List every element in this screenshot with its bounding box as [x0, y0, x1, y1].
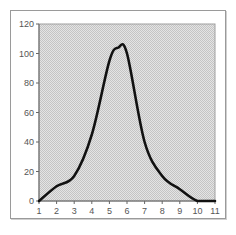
x-tick-label: 3 — [72, 206, 77, 216]
x-tick-label: 10 — [192, 206, 202, 216]
y-tick-label: 60 — [24, 108, 34, 118]
y-tick-label: 0 — [29, 196, 34, 206]
x-tick-label: 7 — [142, 206, 147, 216]
x-axis-ticks: 1234567891011 — [36, 201, 219, 216]
line-chart: 020406080100120 1234567891011 — [0, 0, 236, 235]
y-tick-label: 20 — [24, 167, 34, 177]
x-tick-label: 9 — [177, 206, 182, 216]
x-tick-label: 1 — [36, 206, 41, 216]
x-tick-label: 4 — [89, 206, 94, 216]
y-tick-label: 80 — [24, 78, 34, 88]
x-tick-label: 11 — [210, 206, 219, 216]
x-tick-label: 6 — [124, 206, 129, 216]
x-tick-label: 5 — [107, 206, 112, 216]
x-tick-label: 2 — [54, 206, 59, 216]
y-tick-label: 40 — [24, 137, 34, 147]
y-axis-ticks: 020406080100120 — [19, 19, 39, 206]
y-tick-label: 100 — [19, 49, 34, 59]
x-tick-label: 8 — [160, 206, 165, 216]
y-tick-label: 120 — [19, 19, 34, 29]
